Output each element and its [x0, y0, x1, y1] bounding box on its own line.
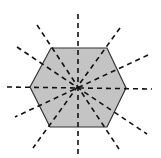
diagram: Regular hexagon with lines of symmetry: [0, 0, 161, 158]
hexagon-diagram: [0, 0, 161, 158]
